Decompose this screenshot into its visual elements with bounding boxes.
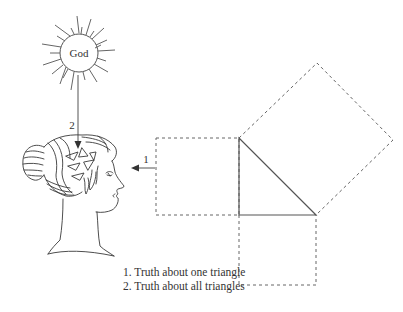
caption: 1. Truth about one triangle 2. Truth abo… [123, 265, 245, 293]
hypotenuse-square [239, 63, 393, 215]
pythagorean-figure [156, 63, 393, 285]
arrow-2-label: 2 [69, 119, 75, 131]
bottom-square [239, 215, 316, 285]
arrow-1 [131, 165, 155, 172]
arrow-1-label: 1 [143, 153, 149, 165]
classical-head-icon [23, 135, 124, 256]
caption-item-2: 2. Truth about all triangles [123, 279, 245, 293]
arrow-2 [75, 75, 82, 149]
left-square [156, 138, 239, 215]
god-label: God [70, 47, 89, 59]
right-triangle [239, 138, 316, 215]
caption-item-1: 1. Truth about one triangle [123, 265, 245, 279]
